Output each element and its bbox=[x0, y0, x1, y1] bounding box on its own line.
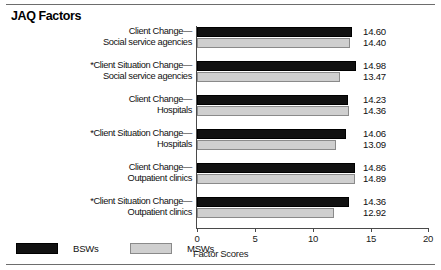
legend-label-msws: MSWs bbox=[187, 243, 214, 254]
bar-value-bsw: 14.60 bbox=[363, 26, 386, 37]
bar-value-bsw: 14.98 bbox=[363, 60, 386, 71]
bar-group: Client Change— Hospitals 14.23 14.36 bbox=[0, 94, 441, 124]
category-label: Client Change— Hospitals bbox=[0, 94, 192, 116]
x-axis-tick-label: 20 bbox=[423, 233, 433, 244]
category-label-line1: *Client Situation Change— bbox=[90, 60, 192, 70]
bar-group: *Client Situation Change— Outpatient cli… bbox=[0, 196, 441, 226]
bar-bsw bbox=[197, 129, 346, 139]
x-axis-tick bbox=[371, 228, 372, 232]
bar-msw bbox=[197, 38, 350, 48]
category-label: *Client Situation Change— Hospitals bbox=[0, 128, 192, 150]
bar-bsw bbox=[197, 61, 356, 71]
bottom-divider bbox=[6, 264, 435, 265]
bar-msw bbox=[197, 208, 334, 218]
x-axis-tick bbox=[428, 228, 429, 232]
bar-value-msw: 13.47 bbox=[363, 71, 386, 82]
bar-value-msw: 14.89 bbox=[363, 173, 386, 184]
category-label-line2: Social service agencies bbox=[103, 37, 192, 47]
legend-label-bsws: BSWs bbox=[73, 243, 99, 254]
bar-value-bsw: 14.36 bbox=[363, 196, 386, 207]
bar-msw bbox=[197, 174, 355, 184]
x-axis-tick bbox=[197, 228, 198, 232]
legend-swatch-bsws bbox=[16, 243, 58, 254]
legend-item-bsws: BSWs bbox=[16, 243, 99, 254]
x-axis-tick-label: 15 bbox=[366, 233, 376, 244]
category-label-line1: *Client Situation Change— bbox=[90, 128, 192, 138]
legend-swatch-msws bbox=[130, 243, 172, 254]
category-label: *Client Situation Change— Social service… bbox=[0, 60, 192, 82]
category-label-line2: Hospitals bbox=[157, 105, 192, 115]
x-axis-tick-label: 10 bbox=[308, 233, 318, 244]
bar-value-msw: 13.09 bbox=[363, 139, 386, 150]
category-label: Client Change— Social service agencies bbox=[0, 26, 192, 48]
bar-value-bsw: 14.23 bbox=[363, 94, 386, 105]
x-axis-tick bbox=[313, 228, 314, 232]
category-label-line1: Client Change— bbox=[129, 94, 192, 104]
bar-value-msw: 12.92 bbox=[363, 207, 386, 218]
category-label-line1: Client Change— bbox=[129, 162, 192, 172]
category-label: *Client Situation Change— Outpatient cli… bbox=[0, 196, 192, 218]
chart-page: JAQ Factors Client Change— Social servic… bbox=[0, 0, 441, 270]
category-label-line1: *Client Situation Change— bbox=[90, 196, 192, 206]
bar-bsw bbox=[197, 163, 355, 173]
bar-msw bbox=[197, 140, 336, 150]
bar-value-bsw: 14.06 bbox=[363, 128, 386, 139]
bar-group: Client Change— Social service agencies 1… bbox=[0, 26, 441, 56]
bar-group: *Client Situation Change— Hospitals 14.0… bbox=[0, 128, 441, 158]
x-axis-tick bbox=[255, 228, 256, 232]
bar-group: *Client Situation Change— Social service… bbox=[0, 60, 441, 90]
bar-group: Client Change— Outpatient clinics 14.86 … bbox=[0, 162, 441, 192]
category-label-line2: Outpatient clinics bbox=[128, 207, 193, 217]
bar-value-bsw: 14.86 bbox=[363, 162, 386, 173]
category-label-line2: Outpatient clinics bbox=[128, 173, 193, 183]
bar-bsw bbox=[197, 197, 349, 207]
bar-msw bbox=[197, 106, 349, 116]
category-label-line2: Social service agencies bbox=[103, 71, 192, 81]
category-label: Client Change— Outpatient clinics bbox=[0, 162, 192, 184]
category-label-line2: Hospitals bbox=[157, 139, 192, 149]
bar-value-msw: 14.40 bbox=[363, 37, 386, 48]
bar-msw bbox=[197, 72, 340, 82]
bar-bsw bbox=[197, 27, 352, 37]
bar-value-msw: 14.36 bbox=[363, 105, 386, 116]
category-label-line1: Client Change— bbox=[129, 26, 192, 36]
x-axis-tick-label: 5 bbox=[252, 233, 257, 244]
legend-item-msws: MSWs bbox=[130, 243, 214, 254]
plot-area: Client Change— Social service agencies 1… bbox=[0, 0, 441, 270]
bar-bsw bbox=[197, 95, 348, 105]
